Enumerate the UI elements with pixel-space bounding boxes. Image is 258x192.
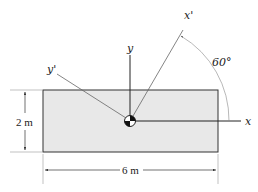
- height-dimension: 2 m: [10, 90, 42, 152]
- x-label: x: [245, 115, 252, 128]
- y-prime-label: y': [46, 63, 56, 76]
- width-dimension: 6 m: [43, 154, 218, 184]
- width-label: 6 m: [122, 164, 139, 176]
- height-label: 2 m: [16, 116, 33, 128]
- y-label: y: [126, 42, 134, 55]
- x-prime-label: x': [184, 9, 193, 22]
- angle-label: 60°: [212, 56, 232, 69]
- diagram-canvas: 2 m 6 m y' y x' x 60°: [0, 0, 258, 192]
- centroid-icon: [125, 116, 136, 127]
